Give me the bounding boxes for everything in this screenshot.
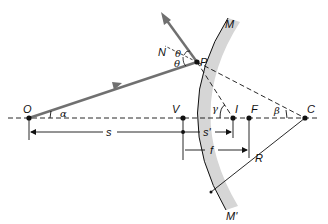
label-m: M (225, 18, 235, 30)
mirror-diagram: O V I F C P M M' N α β γ θ θ s s' f R (0, 0, 328, 224)
point-c (302, 115, 307, 120)
point-f (246, 115, 251, 120)
label-c: C (307, 103, 315, 115)
label-v: V (172, 103, 181, 115)
point-p (194, 59, 199, 64)
point-dim-v (181, 130, 185, 134)
point-v (180, 115, 185, 120)
mirror-body (197, 18, 240, 210)
label-alpha: α (60, 108, 67, 119)
label-o: O (23, 103, 32, 115)
label-s: s (106, 126, 112, 138)
label-m-prime: M' (226, 210, 238, 222)
label-p: P (200, 56, 208, 68)
label-f: F (251, 103, 259, 115)
point-r-end (210, 191, 213, 194)
point-i (230, 115, 235, 120)
label-n: N (158, 46, 166, 58)
beta-arc (286, 110, 287, 118)
point-o (26, 115, 31, 120)
label-theta-bottom: θ (174, 58, 180, 69)
label-i: I (235, 103, 238, 115)
gamma-arc (220, 105, 225, 118)
label-s-prime: s' (203, 126, 212, 138)
label-beta: β (273, 105, 280, 116)
label-r: R (255, 152, 263, 164)
label-gamma: γ (212, 103, 218, 114)
